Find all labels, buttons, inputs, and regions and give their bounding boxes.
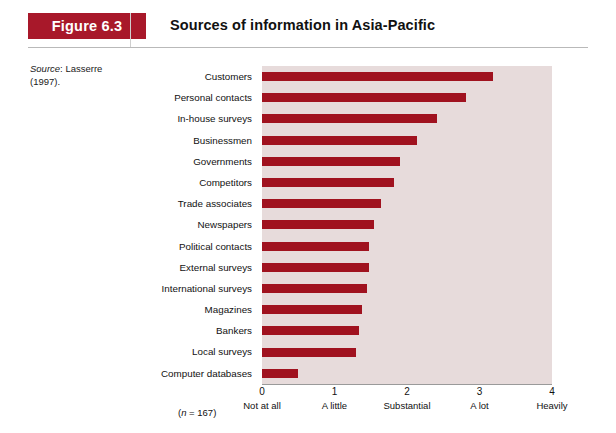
- bar-row: [262, 214, 552, 235]
- figure-container: Figure 6.3 Sources of information in Asi…: [0, 0, 616, 433]
- bar-chart: CustomersPersonal contactsIn-house surve…: [150, 62, 590, 392]
- category-label: International surveys: [150, 278, 257, 299]
- category-label: In-house surveys: [150, 108, 257, 129]
- source-note: Source: Lasserre (1997).: [30, 62, 160, 88]
- bar-row: [262, 193, 552, 214]
- category-label: Magazines: [150, 299, 257, 320]
- bar: [262, 114, 437, 123]
- bar-row: [262, 320, 552, 341]
- bar-row: [262, 87, 552, 108]
- category-label: Businessmen: [150, 130, 257, 151]
- plot-area: [262, 66, 552, 384]
- figure-header: Figure 6.3 Sources of information in Asi…: [28, 13, 588, 45]
- x-tick-text: Heavily: [507, 399, 597, 412]
- category-axis-labels: CustomersPersonal contactsIn-house surve…: [150, 66, 257, 384]
- bar-row: [262, 341, 552, 362]
- bar-row: [262, 299, 552, 320]
- bar: [262, 157, 400, 166]
- figure-number-badge: Figure 6.3: [28, 13, 146, 39]
- bar: [262, 199, 381, 208]
- category-label: Governments: [150, 151, 257, 172]
- bar: [262, 93, 466, 102]
- source-label: Source: [30, 63, 60, 74]
- bar: [262, 348, 356, 357]
- bar: [262, 263, 369, 272]
- x-tick: 4Heavily: [507, 385, 597, 412]
- header-vertical-divider: [130, 13, 131, 47]
- x-axis-ticks: 0Not at all1A little2Substantial3A lot4H…: [262, 385, 552, 419]
- x-tick-number: 4: [507, 385, 597, 399]
- bar-row: [262, 236, 552, 257]
- category-label: Bankers: [150, 320, 257, 341]
- category-label: Personal contacts: [150, 87, 257, 108]
- bar-row: [262, 151, 552, 172]
- source-year: (1997).: [30, 76, 60, 87]
- category-label: Newspapers: [150, 214, 257, 235]
- bar: [262, 178, 394, 187]
- bar-row: [262, 130, 552, 151]
- figure-title: Sources of information in Asia-Pacific: [170, 17, 435, 33]
- category-label: Trade associates: [150, 193, 257, 214]
- category-label: Political contacts: [150, 236, 257, 257]
- bar: [262, 242, 369, 251]
- header-horizontal-rule: [28, 47, 588, 48]
- sample-size-note: (n = 167): [178, 407, 216, 418]
- source-text: : Lasserre: [60, 63, 102, 74]
- bar-row: [262, 363, 552, 384]
- bar: [262, 136, 417, 145]
- bar: [262, 220, 374, 229]
- bar-row: [262, 108, 552, 129]
- category-label: Competitors: [150, 172, 257, 193]
- bar-row: [262, 172, 552, 193]
- bar-row: [262, 66, 552, 87]
- bar: [262, 326, 359, 335]
- category-label: Computer databases: [150, 363, 257, 384]
- bar: [262, 72, 493, 81]
- category-label: Local surveys: [150, 341, 257, 362]
- category-label: External surveys: [150, 257, 257, 278]
- bar-row: [262, 278, 552, 299]
- category-label: Customers: [150, 66, 257, 87]
- bar: [262, 284, 367, 293]
- bar: [262, 369, 298, 378]
- bar-row: [262, 257, 552, 278]
- bar: [262, 305, 362, 314]
